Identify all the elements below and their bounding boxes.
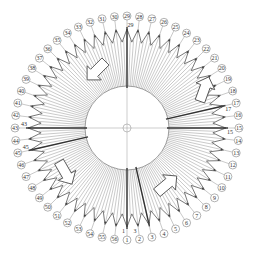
terminal-dot-icon bbox=[222, 138, 224, 140]
slot-label: 54 bbox=[86, 230, 94, 238]
slot-label: 42 bbox=[12, 111, 20, 119]
svg-text:28: 28 bbox=[137, 14, 143, 20]
svg-text:46: 46 bbox=[18, 162, 24, 168]
terminal-dot-icon bbox=[178, 209, 180, 211]
terminal-dot-icon bbox=[94, 35, 96, 37]
terminal-dot-icon bbox=[50, 67, 52, 69]
slot-label: 22 bbox=[202, 45, 210, 53]
terminal-dot-icon bbox=[223, 127, 225, 129]
svg-text:36: 36 bbox=[45, 46, 51, 52]
svg-text:5: 5 bbox=[174, 226, 177, 232]
svg-text:53: 53 bbox=[75, 226, 81, 232]
terminal-dot-icon bbox=[137, 31, 139, 33]
slot-label: 1 bbox=[123, 236, 131, 244]
svg-text:8: 8 bbox=[205, 204, 208, 210]
winding-diagram: 1234567891011121314151617181920212223242… bbox=[0, 0, 254, 257]
svg-text:56: 56 bbox=[111, 236, 117, 242]
svg-text:54: 54 bbox=[87, 231, 93, 237]
inner-tag: 43 bbox=[21, 121, 27, 127]
slot-label: 52 bbox=[63, 219, 71, 227]
terminal-dot-icon bbox=[44, 179, 46, 181]
svg-text:20: 20 bbox=[219, 65, 225, 71]
slot-label: 25 bbox=[172, 23, 180, 31]
svg-text:47: 47 bbox=[23, 174, 29, 180]
svg-text:40: 40 bbox=[18, 88, 24, 94]
terminal-dot-icon bbox=[104, 222, 106, 224]
slot-label: 12 bbox=[229, 161, 237, 169]
inner-tag: 29 bbox=[128, 22, 134, 28]
svg-text:29: 29 bbox=[124, 13, 130, 19]
svg-text:12: 12 bbox=[230, 162, 236, 168]
svg-text:44: 44 bbox=[13, 138, 19, 144]
slot-label: 28 bbox=[136, 13, 144, 21]
slot-label: 44 bbox=[12, 137, 20, 145]
slot-label: 40 bbox=[17, 87, 25, 95]
terminal-dot-icon bbox=[39, 85, 41, 87]
svg-text:10: 10 bbox=[219, 185, 225, 191]
slot-label: 50 bbox=[44, 203, 52, 211]
svg-text:30: 30 bbox=[111, 14, 117, 20]
svg-text:41: 41 bbox=[15, 100, 21, 106]
terminal-dot-icon bbox=[39, 169, 41, 171]
terminal-dot-icon bbox=[195, 196, 197, 198]
terminal-dot-icon bbox=[222, 116, 224, 118]
svg-text:24: 24 bbox=[184, 30, 190, 36]
terminal-dot-icon bbox=[221, 105, 223, 107]
terminal-dot-icon bbox=[126, 30, 128, 32]
slot-label: 55 bbox=[98, 233, 106, 241]
terminal-dot-icon bbox=[31, 149, 33, 151]
svg-text:52: 52 bbox=[64, 220, 70, 226]
terminal-dot-icon bbox=[218, 159, 220, 161]
svg-text:13: 13 bbox=[233, 150, 239, 156]
terminal-dot-icon bbox=[178, 45, 180, 47]
svg-text:45: 45 bbox=[15, 150, 21, 156]
svg-text:17: 17 bbox=[233, 100, 239, 106]
svg-text:15: 15 bbox=[236, 125, 242, 131]
slot-label: 26 bbox=[160, 18, 168, 26]
arrow-lower-left-icon bbox=[50, 157, 80, 190]
slot-label: 20 bbox=[218, 64, 226, 72]
svg-text:27: 27 bbox=[149, 16, 155, 22]
svg-text:3: 3 bbox=[150, 234, 153, 240]
svg-text:19: 19 bbox=[225, 76, 231, 82]
terminal-dot-icon bbox=[115, 31, 117, 33]
terminal-dot-icon bbox=[84, 214, 86, 216]
inner-tag: 45 bbox=[23, 144, 29, 150]
terminal-dot-icon bbox=[74, 45, 76, 47]
slot-label: 53 bbox=[74, 225, 82, 233]
slot-label: 29 bbox=[123, 12, 131, 20]
slot-label: 43 bbox=[11, 124, 19, 132]
slot-label: 16 bbox=[234, 111, 242, 119]
slot-label: 24 bbox=[183, 29, 191, 37]
svg-text:49: 49 bbox=[36, 195, 42, 201]
terminal-dot-icon bbox=[50, 187, 52, 189]
slot-label: 45 bbox=[14, 149, 22, 157]
terminal-dot-icon bbox=[115, 223, 117, 225]
terminal-dot-icon bbox=[208, 179, 210, 181]
slot-label: 39 bbox=[22, 75, 30, 83]
slot-label: 6 bbox=[183, 219, 191, 227]
svg-text:31: 31 bbox=[99, 16, 105, 22]
terminal-dot-icon bbox=[31, 105, 33, 107]
slot-label: 18 bbox=[229, 87, 237, 95]
svg-text:43: 43 bbox=[12, 125, 18, 131]
terminal-dot-icon bbox=[57, 58, 59, 60]
terminal-dot-icon bbox=[168, 40, 170, 42]
slot-label: 15 bbox=[235, 124, 243, 132]
slot-label: 47 bbox=[22, 173, 30, 181]
terminal-dot-icon bbox=[158, 35, 160, 37]
svg-text:32: 32 bbox=[87, 19, 93, 25]
terminal-dot-icon bbox=[137, 223, 139, 225]
terminal-dot-icon bbox=[202, 67, 204, 69]
svg-text:18: 18 bbox=[230, 88, 236, 94]
terminal-dot-icon bbox=[57, 196, 59, 198]
slot-label: 9 bbox=[211, 194, 219, 202]
slot-label: 36 bbox=[44, 45, 52, 53]
svg-text:14: 14 bbox=[235, 138, 241, 144]
terminal-dot-icon bbox=[34, 95, 36, 97]
diagram-canvas: 1234567891011121314151617181920212223242… bbox=[0, 0, 254, 257]
slot-label: 7 bbox=[193, 212, 201, 220]
svg-text:21: 21 bbox=[212, 55, 218, 61]
slot-label: 23 bbox=[193, 36, 201, 44]
slot-label: 31 bbox=[98, 15, 106, 23]
